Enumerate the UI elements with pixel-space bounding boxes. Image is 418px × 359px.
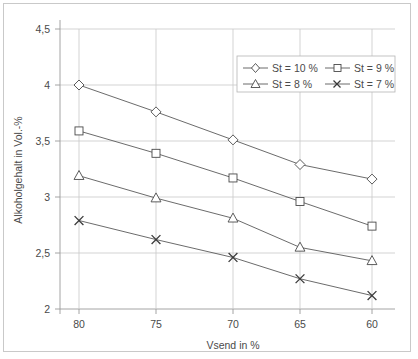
x-tick-label-80: 80 bbox=[73, 318, 85, 330]
legend-label-3: St = 7 % bbox=[354, 78, 394, 90]
diamond-icon bbox=[228, 135, 238, 145]
x-tick-label-60: 60 bbox=[366, 318, 378, 330]
x-tick-label-65: 65 bbox=[294, 318, 306, 330]
data-point bbox=[295, 242, 305, 251]
data-point bbox=[228, 135, 238, 145]
square-icon bbox=[368, 222, 376, 230]
series-line bbox=[79, 221, 372, 296]
diamond-icon bbox=[151, 107, 161, 117]
diamond-icon bbox=[367, 174, 377, 184]
y-tick-label-4: 4 bbox=[44, 79, 50, 91]
series-line bbox=[79, 176, 372, 261]
triangle-icon bbox=[74, 171, 84, 180]
legend-label-2: St = 8 % bbox=[272, 78, 312, 90]
data-point bbox=[151, 107, 161, 117]
data-point bbox=[74, 171, 84, 180]
triangle-icon bbox=[295, 242, 305, 251]
diamond-icon bbox=[295, 160, 305, 170]
data-point bbox=[229, 174, 237, 182]
data-point bbox=[74, 80, 84, 90]
diamond-icon bbox=[74, 80, 84, 90]
data-point bbox=[152, 149, 160, 157]
y-tick-label-3: 3 bbox=[44, 191, 50, 203]
plot-series-group bbox=[74, 80, 377, 300]
y-tick-labels: 4,5 4 3,5 3 2,5 2 bbox=[35, 23, 50, 315]
legend-label-1: St = 9 % bbox=[354, 62, 394, 74]
x-tick-label-70: 70 bbox=[227, 318, 239, 330]
series-2 bbox=[74, 171, 377, 265]
square-icon bbox=[296, 197, 304, 205]
y-tick-marks bbox=[55, 29, 60, 309]
x-tick-labels: 80 75 70 65 60 bbox=[73, 318, 378, 330]
y-tick-label-2.5: 2,5 bbox=[35, 247, 50, 259]
series-3 bbox=[75, 216, 377, 300]
y-tick-label-2: 2 bbox=[44, 303, 50, 315]
chart-svg: 4,5 4 3,5 3 2,5 2 80 75 70 65 60 Alkohol… bbox=[0, 0, 418, 359]
x-axis-title: Vsend in % bbox=[206, 339, 259, 351]
series-0 bbox=[74, 80, 377, 184]
data-point bbox=[295, 160, 305, 170]
y-tick-label-4.5: 4,5 bbox=[35, 23, 50, 35]
data-point bbox=[368, 222, 376, 230]
chart-legend: St = 10 % St = 9 % St = 8 % St = 7 % bbox=[237, 56, 395, 92]
square-icon bbox=[229, 174, 237, 182]
data-point bbox=[367, 174, 377, 184]
square-icon bbox=[334, 65, 341, 72]
square-icon bbox=[152, 149, 160, 157]
data-point bbox=[75, 127, 83, 135]
legend-label-0: St = 10 % bbox=[272, 62, 318, 74]
series-1 bbox=[75, 127, 376, 230]
square-icon bbox=[75, 127, 83, 135]
series-line bbox=[79, 131, 372, 226]
x-tick-marks bbox=[79, 309, 372, 314]
y-axis-title: Alkoholgehalt in Vol.-% bbox=[12, 116, 24, 223]
line-chart: 4,5 4 3,5 3 2,5 2 80 75 70 65 60 Alkohol… bbox=[0, 0, 418, 359]
series-line bbox=[79, 85, 372, 179]
data-point bbox=[296, 197, 304, 205]
y-tick-label-3.5: 3,5 bbox=[35, 135, 50, 147]
x-tick-label-75: 75 bbox=[150, 318, 162, 330]
